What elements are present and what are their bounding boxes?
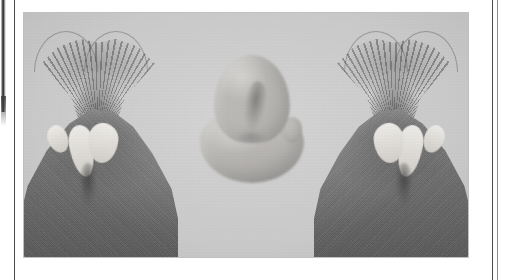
left-specimen-panel — [24, 13, 178, 257]
photographic-plate — [24, 13, 468, 257]
gutter-smear-fade-artifact — [1, 96, 6, 126]
right-specimen-panel — [314, 13, 468, 257]
right-margin-rule — [492, 0, 493, 280]
right-margin-rule-soft — [497, 0, 498, 280]
center-specimen-groove-secondary — [236, 129, 266, 145]
figure-page — [0, 0, 511, 280]
right-specimen-cleft — [396, 163, 412, 209]
left-specimen-cleft — [80, 163, 96, 209]
center-specimen-panel — [192, 55, 312, 183]
left-margin-rule — [14, 0, 15, 280]
